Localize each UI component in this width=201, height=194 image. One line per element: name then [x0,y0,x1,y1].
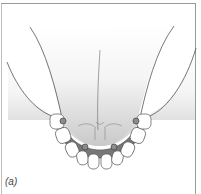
implant-icon [133,118,139,124]
dental-arch-diagram [0,0,201,194]
implant-icon [111,144,117,150]
tooth [101,154,112,169]
implant-icon [82,144,88,150]
figure-label: (a) [5,176,17,187]
implant-icon [60,118,66,124]
tooth [88,154,99,169]
